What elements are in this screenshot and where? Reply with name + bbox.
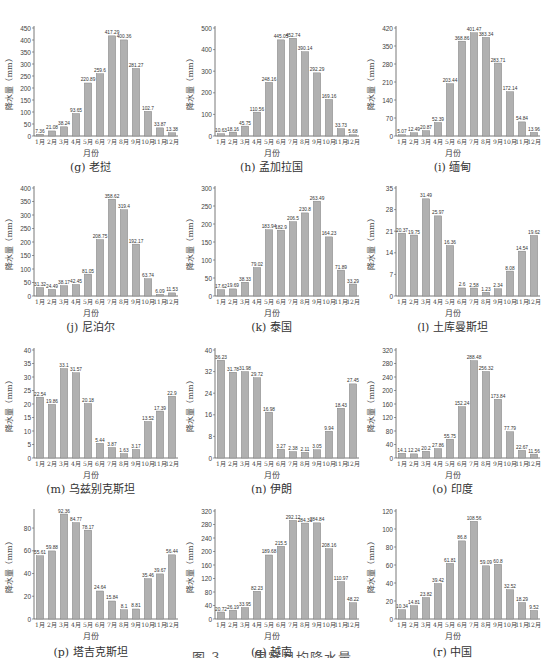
svg-text:300: 300 — [201, 185, 212, 192]
svg-text:200: 200 — [382, 387, 393, 394]
svg-text:283.71: 283.71 — [491, 58, 506, 63]
svg-text:500: 500 — [201, 25, 212, 32]
bar-chart: 0714212835降水量（mm）20.371月19.752月31.493月25… — [362, 160, 543, 320]
svg-text:110.56: 110.56 — [250, 107, 265, 112]
svg-text:9月: 9月 — [131, 460, 141, 468]
svg-text:9月: 9月 — [493, 298, 503, 306]
svg-text:400.36: 400.36 — [117, 34, 132, 39]
svg-text:降水量（mm）: 降水量（mm） — [366, 214, 376, 269]
svg-text:281.27: 281.27 — [129, 63, 144, 68]
svg-text:80: 80 — [386, 544, 394, 551]
svg-text:15: 15 — [24, 414, 32, 421]
svg-text:33.73: 33.73 — [335, 123, 347, 128]
svg-text:降水量（mm）: 降水量（mm） — [185, 214, 195, 269]
svg-text:63.74: 63.74 — [142, 273, 154, 278]
svg-text:18.43: 18.43 — [335, 403, 347, 408]
svg-text:1月: 1月 — [397, 138, 407, 146]
svg-text:80: 80 — [205, 589, 213, 596]
svg-text:0: 0 — [389, 455, 393, 462]
svg-text:8月: 8月 — [300, 621, 310, 629]
svg-text:16.98: 16.98 — [263, 407, 275, 412]
svg-text:5月: 5月 — [83, 298, 93, 306]
svg-text:120: 120 — [382, 414, 393, 421]
svg-text:5月: 5月 — [264, 298, 274, 306]
svg-text:80: 80 — [386, 428, 394, 435]
svg-text:55.75: 55.75 — [444, 434, 456, 439]
svg-text:31.98: 31.98 — [239, 366, 251, 371]
svg-text:120: 120 — [201, 575, 212, 582]
svg-text:5月: 5月 — [445, 460, 455, 468]
svg-text:93.65: 93.65 — [70, 108, 82, 113]
bar-chart: 0510152025303540降水量（mm）22.541月19.862月33.… — [0, 322, 181, 482]
svg-text:11.53: 11.53 — [166, 287, 178, 292]
svg-text:263.49: 263.49 — [310, 196, 325, 201]
svg-text:160: 160 — [382, 401, 393, 408]
svg-text:8月: 8月 — [300, 138, 310, 146]
chart-panel: 0100200300400500降水量（mm）10.631月18.162月45.… — [181, 0, 362, 160]
svg-text:1月: 1月 — [35, 138, 45, 146]
svg-text:8月: 8月 — [481, 460, 491, 468]
svg-text:20.87: 20.87 — [420, 125, 432, 130]
svg-text:29.72: 29.72 — [251, 372, 263, 377]
svg-text:12月: 12月 — [527, 298, 541, 306]
svg-text:5月: 5月 — [83, 621, 93, 629]
svg-text:152.24: 152.24 — [455, 401, 470, 406]
svg-text:19.69: 19.69 — [227, 283, 239, 288]
x-axis-label: 月份 — [0, 630, 181, 641]
svg-text:5月: 5月 — [83, 138, 93, 146]
svg-text:6月: 6月 — [457, 298, 467, 306]
svg-text:100: 100 — [382, 526, 393, 533]
svg-text:26.19: 26.19 — [227, 605, 239, 610]
svg-text:100: 100 — [201, 257, 212, 264]
svg-text:2月: 2月 — [47, 460, 57, 468]
svg-text:2.6: 2.6 — [459, 282, 466, 287]
svg-text:102.7: 102.7 — [142, 106, 154, 111]
svg-text:13.38: 13.38 — [166, 127, 178, 132]
svg-text:3.05: 3.05 — [312, 444, 322, 449]
svg-text:215.5: 215.5 — [275, 541, 287, 546]
svg-text:9.94: 9.94 — [324, 426, 334, 431]
svg-text:248.16: 248.16 — [262, 77, 277, 82]
svg-text:3月: 3月 — [240, 621, 250, 629]
x-axis-label: 月份 — [181, 307, 362, 318]
svg-text:120: 120 — [382, 508, 393, 515]
svg-text:3月: 3月 — [421, 460, 431, 468]
svg-text:400: 400 — [201, 46, 212, 53]
svg-text:3月: 3月 — [421, 621, 431, 629]
svg-text:2.38: 2.38 — [288, 446, 298, 451]
bar-chart: 070140210280350420降水量（mm）5.071月12.492月20… — [362, 0, 543, 160]
svg-text:9月: 9月 — [493, 460, 503, 468]
svg-text:8.1: 8.1 — [121, 604, 128, 609]
svg-text:8月: 8月 — [300, 298, 310, 306]
svg-text:2月: 2月 — [47, 138, 57, 146]
svg-text:56.44: 56.44 — [166, 549, 178, 554]
svg-text:71.89: 71.89 — [335, 265, 347, 270]
svg-text:7月: 7月 — [469, 460, 479, 468]
svg-text:60.8: 60.8 — [493, 559, 503, 564]
svg-text:30: 30 — [24, 374, 32, 381]
svg-text:4月: 4月 — [433, 138, 443, 146]
svg-text:0: 0 — [208, 133, 212, 140]
svg-text:32: 32 — [205, 368, 213, 375]
svg-text:6月: 6月 — [95, 621, 105, 629]
svg-text:12月: 12月 — [527, 621, 541, 629]
svg-text:4月: 4月 — [71, 138, 81, 146]
svg-text:15.84: 15.84 — [106, 595, 118, 600]
svg-text:208.16: 208.16 — [322, 543, 337, 548]
svg-text:2.58: 2.58 — [469, 283, 479, 288]
chart-panel: 0510152025303540降水量（mm）22.541月19.862月33.… — [0, 322, 181, 482]
svg-text:22.9: 22.9 — [167, 391, 177, 396]
svg-text:21.08: 21.08 — [46, 125, 58, 130]
svg-text:420: 420 — [382, 25, 393, 32]
svg-text:16.36: 16.36 — [444, 240, 456, 245]
svg-text:3月: 3月 — [240, 138, 250, 146]
svg-text:9月: 9月 — [131, 298, 141, 306]
svg-text:35: 35 — [386, 185, 394, 192]
svg-text:203.44: 203.44 — [443, 78, 458, 83]
chart-panel: 050100150200250300350400降水量（mm）31.321月24… — [0, 160, 181, 320]
svg-text:12月: 12月 — [346, 621, 360, 629]
svg-text:5月: 5月 — [445, 298, 455, 306]
svg-text:25: 25 — [24, 387, 32, 394]
svg-text:3月: 3月 — [59, 621, 69, 629]
svg-text:12月: 12月 — [165, 621, 179, 629]
